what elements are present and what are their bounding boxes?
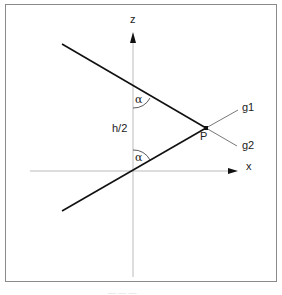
line-g1-label: g1 [242, 102, 254, 113]
x-axis-arrow-icon [228, 168, 238, 174]
line-g2-thin [206, 128, 237, 146]
line-g1-thick [62, 128, 206, 211]
z-axis-arrow-icon [130, 32, 136, 43]
angle-label-lower: α [135, 152, 142, 163]
z-axis-label: z [130, 14, 136, 25]
distance-label: h/2 [112, 123, 127, 134]
diagram-canvas [0, 0, 282, 295]
point-p-label: P [200, 131, 207, 142]
line-g2-label: g2 [242, 140, 254, 151]
line-g1-thin [206, 110, 238, 128]
line-g2-thick [62, 44, 206, 128]
angle-label-upper: α [135, 94, 142, 105]
x-axis-label: x [246, 161, 252, 172]
figure-caption: — — — [108, 288, 136, 295]
